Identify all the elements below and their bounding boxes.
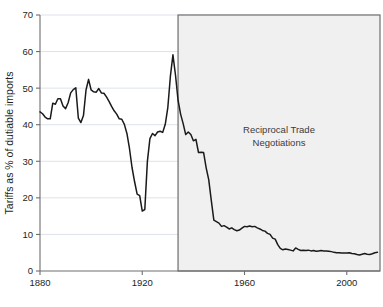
y-tick-label-40: 40 xyxy=(22,119,33,130)
x-tick-label-1960: 1960 xyxy=(234,277,255,288)
y-tick-label-60: 60 xyxy=(22,46,33,57)
y-axis-label: Tariffs as % of dutiable imports xyxy=(3,72,15,215)
annotation-line-2: Negotiations xyxy=(253,137,306,148)
x-tick-label-1880: 1880 xyxy=(29,277,50,288)
y-tick-label-10: 10 xyxy=(22,229,33,240)
y-tick-label-30: 30 xyxy=(22,156,33,167)
y-tick-label-50: 50 xyxy=(22,83,33,94)
y-tick-label-70: 70 xyxy=(22,9,33,20)
tariff-chart-figure: 010203040506070 1880192019602000 Tariffs… xyxy=(0,0,383,307)
y-tick-label-20: 20 xyxy=(22,192,33,203)
x-tick-label-1920: 1920 xyxy=(132,277,153,288)
chart-canvas: 010203040506070 1880192019602000 Tariffs… xyxy=(0,0,383,307)
x-tick-label-2000: 2000 xyxy=(336,277,357,288)
y-tick-label-0: 0 xyxy=(28,265,33,276)
annotation-line-1: Reciprocal Trade xyxy=(243,124,315,135)
